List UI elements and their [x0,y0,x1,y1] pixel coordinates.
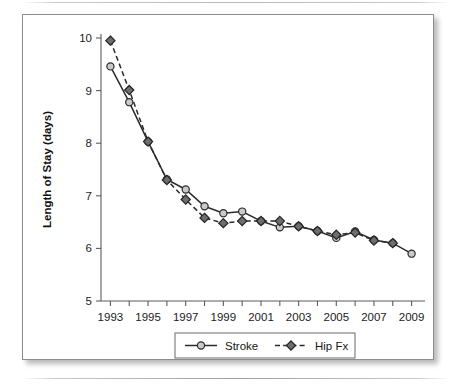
data-point-hip-fx-2004 [313,226,322,235]
figure-card: 5678910 19931995199719992001200320052007… [22,14,434,360]
x-tick-label: 2007 [361,311,387,323]
y-tick-label: 9 [86,85,92,97]
x-tick-label: 2003 [286,311,312,323]
x-axis-ticks: 199319951997199920012003200520072009 [98,301,425,323]
x-tick-label: 1995 [135,311,161,323]
chart-legend: StrokeHip Fx [175,333,355,358]
top-divider-rule [22,2,450,3]
data-point-hip-fx-2002 [275,216,284,225]
data-point-hip-fx-1999 [219,219,228,228]
data-point-stroke-1997 [182,186,189,193]
data-point-hip-fx-2008 [388,239,397,248]
data-point-stroke-1994 [126,99,133,106]
y-tick-label: 6 [86,242,92,254]
x-tick-label: 1999 [211,311,237,323]
data-point-stroke-1998 [201,203,208,210]
legend-label-hip-fx: Hip Fx [315,340,348,352]
x-tick-label: 1993 [98,311,124,323]
data-point-stroke-1999 [220,210,227,217]
data-point-stroke-1993 [107,63,114,70]
bottom-divider-rule [22,378,450,379]
data-point-hip-fx-2003 [294,222,303,231]
data-point-hip-fx-1994 [125,85,134,94]
x-tick-label: 2009 [399,311,425,323]
y-axis-title: Length of Stay (days) [41,111,53,228]
chart-canvas: 5678910 19931995199719992001200320052007… [23,15,433,359]
y-axis-ticks: 5678910 [79,32,101,307]
data-point-stroke-2009 [408,250,415,257]
x-tick-label: 2005 [323,311,349,323]
legend-label-stroke: Stroke [225,340,258,352]
data-point-hip-fx-2001 [256,216,265,225]
y-tick-label: 8 [86,137,92,149]
y-tick-label: 10 [79,32,92,44]
x-tick-label: 2001 [248,311,274,323]
series-markers [106,36,415,257]
data-point-hip-fx-1995 [143,137,152,146]
y-tick-label: 5 [86,295,92,307]
y-tick-label: 7 [86,190,92,202]
data-point-hip-fx-1993 [106,36,115,45]
data-point-stroke-2000 [239,208,246,215]
line-chart: 5678910 19931995199719992001200320052007… [23,15,433,359]
legend-marker-stroke [197,342,204,349]
data-point-hip-fx-2000 [238,216,247,225]
x-tick-label: 1997 [173,311,199,323]
